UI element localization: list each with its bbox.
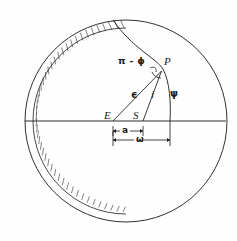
diagram-canvas — [0, 0, 237, 241]
geometry-diagram: E S P π - ϕ ϵ i ψ a ω — [0, 0, 237, 241]
point-label-P: P — [164, 56, 171, 67]
point-label-S: S — [133, 110, 139, 121]
angle-tick-at-P — [150, 67, 156, 72]
dimension-label-a: a — [122, 126, 128, 135]
hatch-group — [36, 20, 126, 212]
orbit-arc — [113, 20, 170, 121]
angle-label-epsilon: ϵ — [131, 90, 137, 100]
point-label-E: E — [104, 110, 111, 121]
angle-label-pi-minus-phi: π - ϕ — [118, 56, 145, 66]
angle-label-psi: ψ — [170, 89, 178, 99]
angle-label-i: i — [151, 89, 154, 100]
dimension-label-omega: ω — [136, 135, 144, 144]
